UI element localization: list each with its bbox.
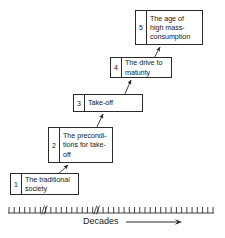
axis-break-mark <box>96 206 99 215</box>
stage-box-1: 1 The traditional society <box>10 173 79 195</box>
stage-5-line-2: high mass- <box>150 23 185 32</box>
stage-2-line-1: The precondi- <box>63 131 107 140</box>
axis-break-mark <box>94 206 97 215</box>
stage-5-line-1: The age of <box>150 14 184 23</box>
stage-box-4: 4 The drive to maturity <box>110 57 172 78</box>
stage-number-5: 5 <box>136 11 147 44</box>
axis-caption: Decades <box>83 216 184 227</box>
stage-label-3: Take-off <box>85 95 142 111</box>
stage-2-line-3: off <box>63 150 71 159</box>
stage-4-line-1: The drive to <box>125 58 162 67</box>
axis-caption-text: Decades <box>83 216 119 226</box>
stage-label-4: The drive to maturity <box>122 58 171 77</box>
stage-1-line-2: society <box>25 184 47 193</box>
axis-break-mark <box>41 206 44 215</box>
stage-number-3: 3 <box>74 95 85 111</box>
stage-1-line-1: The traditional <box>25 175 70 184</box>
axis-direction-arrow-icon <box>126 218 184 226</box>
stage-box-2: 2 The precondi- tions for take- off <box>48 127 113 163</box>
stage-label-5: The age of high mass- consumption <box>147 11 202 44</box>
axis-break-mark <box>44 206 47 215</box>
stage-number-4: 4 <box>111 58 122 77</box>
stage-number-2: 2 <box>49 128 60 162</box>
stage-3-line-1: Take-off <box>88 98 113 107</box>
axis-tick-group <box>9 207 213 213</box>
stage-2-line-2: tions for take- <box>63 140 106 149</box>
stage-box-5: 5 The age of high mass- consumption <box>135 10 203 45</box>
stage-label-1: The traditional society <box>22 174 78 194</box>
rostow-stages-diagram: 5 The age of high mass- consumption 4 Th… <box>0 0 225 238</box>
axis-break-group <box>41 206 99 215</box>
stage-box-3: 3 Take-off <box>73 94 143 112</box>
stage-number-1: 1 <box>11 174 22 194</box>
stage-label-2: The precondi- tions for take- off <box>60 128 112 162</box>
stage-4-line-2: maturity <box>125 68 150 77</box>
stage-5-line-3: consumption <box>150 32 190 41</box>
